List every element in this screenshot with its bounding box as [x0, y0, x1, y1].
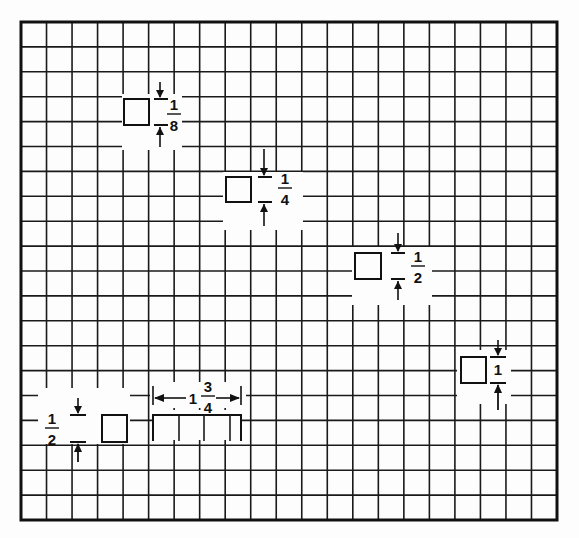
label-numerator: 1 — [170, 96, 178, 113]
label-denominator: 8 — [170, 117, 178, 134]
label-whole: 1 — [494, 361, 502, 378]
label-numerator: 1 — [414, 248, 422, 265]
grid-lines — [21, 22, 557, 520]
label-denominator: 2 — [48, 431, 56, 448]
label-whole: 1 — [189, 390, 197, 407]
label-numerator: 1 — [281, 170, 289, 187]
label-numerator: 1 — [48, 410, 56, 427]
label-denominator: 2 — [414, 269, 422, 286]
label-denominator: 4 — [204, 399, 213, 416]
label-numerator: 3 — [204, 378, 212, 395]
label-denominator: 4 — [281, 191, 290, 208]
grid-diagram: 1 8 1 4 1 2 1 — [0, 0, 579, 538]
